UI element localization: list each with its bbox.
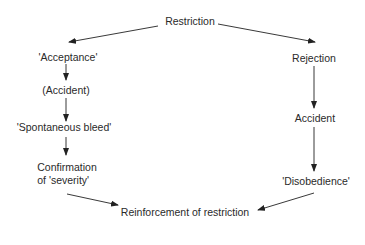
node-spontaneous-bleed: 'Spontaneous bleed'	[17, 121, 112, 134]
edge-disobedience-to-reinforcement	[258, 193, 314, 210]
edge-restriction-to-rejection	[218, 24, 315, 42]
node-reinforcement-of-restriction: Reinforcement of restriction	[121, 206, 249, 219]
edge-confirmation-to-reinforcement	[67, 194, 118, 205]
node-confirmation-line2: of 'severity'	[37, 174, 97, 187]
node-confirmation-of-severity: Confirmation of 'severity'	[37, 161, 97, 187]
flow-diagram: Restriction 'Acceptance' (Accident) 'Spo…	[0, 0, 365, 245]
node-rejection: Rejection	[292, 52, 336, 65]
node-restriction: Restriction	[165, 15, 215, 28]
node-accident: Accident	[295, 112, 335, 125]
node-confirmation-line1: Confirmation	[37, 161, 97, 174]
edge-restriction-to-acceptance	[69, 26, 158, 42]
node-disobedience: 'Disobedience'	[282, 175, 350, 188]
node-accident-paren: (Accident)	[42, 84, 89, 97]
node-acceptance: 'Acceptance'	[39, 51, 98, 64]
